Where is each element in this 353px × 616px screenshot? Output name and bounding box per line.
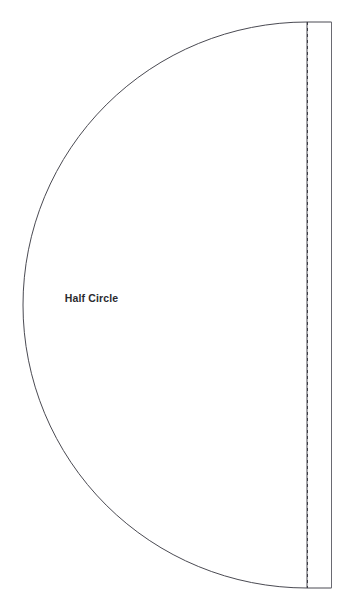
pattern-canvas: Half Circle [0,0,353,616]
shape-label: Half Circle [0,292,353,305]
half-circle-pattern-drawing [0,0,353,616]
half-circle-outline [23,22,307,588]
